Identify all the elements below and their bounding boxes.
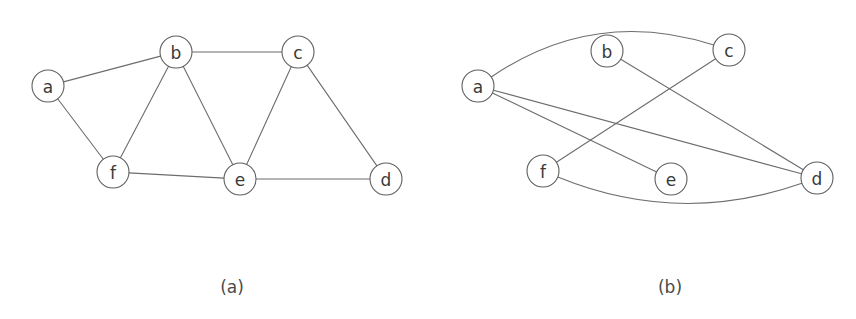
graph-node-panel-b-c[interactable]: c bbox=[713, 34, 745, 66]
graph-node-panel-a-b[interactable]: b bbox=[160, 36, 192, 68]
graph-edge-a-e bbox=[492, 93, 656, 172]
graph-node-panel-a-c[interactable]: c bbox=[282, 36, 314, 68]
graph-edge-b-f bbox=[120, 66, 168, 158]
graph-edge-c-f bbox=[556, 59, 715, 163]
figure-root: abcdefabcdef (a)(b) bbox=[0, 0, 856, 319]
captions-layer: (a)(b) bbox=[220, 277, 682, 297]
node-label-d: d bbox=[381, 170, 392, 190]
graph-node-panel-a-e[interactable]: e bbox=[224, 163, 256, 195]
graph-edge-a-f bbox=[58, 99, 104, 159]
graph-node-panel-b-a[interactable]: a bbox=[462, 70, 494, 102]
panel-caption-panel-a: (a) bbox=[220, 277, 244, 297]
graph-edge-b-d bbox=[621, 59, 804, 169]
graph-node-panel-b-d[interactable]: d bbox=[801, 162, 833, 194]
graph-edge-b-e bbox=[183, 66, 233, 164]
node-label-e: e bbox=[666, 170, 676, 190]
graph-edge-c-d bbox=[307, 65, 377, 166]
graph-edge-a-b bbox=[63, 56, 160, 82]
node-label-a: a bbox=[473, 77, 483, 97]
graph-node-panel-a-f[interactable]: f bbox=[97, 156, 129, 188]
node-label-d: d bbox=[812, 169, 823, 189]
graph-node-panel-a-d[interactable]: d bbox=[370, 163, 402, 195]
graph-node-panel-b-b[interactable]: b bbox=[591, 35, 623, 67]
graph-node-panel-a-a[interactable]: a bbox=[32, 70, 64, 102]
graph-figure-canvas: abcdefabcdef (a)(b) bbox=[0, 0, 856, 319]
node-label-f: f bbox=[110, 163, 117, 183]
node-label-a: a bbox=[43, 77, 53, 97]
panel-caption-panel-b: (b) bbox=[658, 277, 682, 297]
graph-edge-f-e bbox=[129, 173, 224, 178]
node-label-c: c bbox=[724, 41, 733, 61]
graph-node-panel-b-e[interactable]: e bbox=[655, 163, 687, 195]
node-label-f: f bbox=[540, 162, 547, 182]
graph-node-panel-b-f[interactable]: f bbox=[527, 155, 559, 187]
node-label-b: b bbox=[171, 43, 182, 63]
node-label-b: b bbox=[602, 42, 613, 62]
node-label-c: c bbox=[293, 43, 302, 63]
node-label-e: e bbox=[235, 170, 245, 190]
graph-edge-c-e bbox=[247, 67, 292, 165]
